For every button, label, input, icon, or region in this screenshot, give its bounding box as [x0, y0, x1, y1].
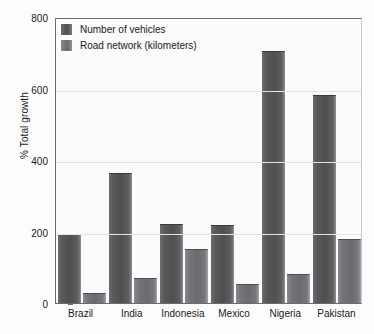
- bar-india-road: [134, 278, 157, 303]
- bar-mexico-vehicles: [211, 225, 234, 303]
- x-axis-tick-label-india: India: [121, 308, 143, 319]
- legend-item-vehicles: Number of vehicles: [60, 23, 197, 36]
- gridline: [56, 234, 361, 235]
- y-axis-tick-mark: [68, 304, 73, 305]
- bar-chart: % Total growth 0200400600800 Number of v…: [0, 0, 374, 334]
- bar-indonesia-vehicles: [160, 224, 183, 303]
- bar-indonesia-road: [185, 249, 208, 303]
- y-axis-tick-label: 800: [31, 13, 48, 24]
- legend-item-road: Road network (kilometers): [60, 39, 197, 52]
- legend-label: Road network (kilometers): [80, 40, 197, 51]
- x-axis-tick-label-pakistan: Pakistan: [317, 308, 355, 319]
- y-axis-tick-labels: 0200400600800: [18, 0, 48, 334]
- legend-swatch-vehicles: [60, 23, 73, 36]
- bar-brazil-vehicles: [58, 234, 81, 303]
- x-axis-tick-label-nigeria: Nigeria: [269, 308, 301, 319]
- bar-pakistan-vehicles: [313, 95, 336, 303]
- x-axis-tick-label-mexico: Mexico: [218, 308, 250, 319]
- gridline: [56, 91, 361, 92]
- y-axis-tick-label: 200: [31, 227, 48, 238]
- y-axis-tick-label: 400: [31, 156, 48, 167]
- bar-mexico-road: [236, 284, 259, 303]
- y-axis-tick-label: 600: [31, 84, 48, 95]
- bar-india-vehicles: [109, 173, 132, 303]
- plot-area: [55, 18, 362, 304]
- legend-swatch-road: [60, 39, 73, 52]
- bars-layer: [56, 19, 361, 303]
- bar-pakistan-road: [338, 239, 361, 303]
- x-axis-tick-label-brazil: Brazil: [68, 308, 93, 319]
- gridline: [56, 162, 361, 163]
- bar-nigeria-vehicles: [262, 51, 285, 303]
- x-axis-tick-labels: BrazilIndiaIndonesiaMexicoNigeriaPakista…: [55, 308, 362, 328]
- y-axis-tick-label: 0: [42, 299, 48, 310]
- chart-legend: Number of vehiclesRoad network (kilomete…: [60, 23, 197, 52]
- bar-nigeria-road: [287, 274, 310, 303]
- bar-brazil-road: [83, 293, 106, 303]
- legend-label: Number of vehicles: [80, 24, 166, 35]
- x-axis-tick-label-indonesia: Indonesia: [161, 308, 204, 319]
